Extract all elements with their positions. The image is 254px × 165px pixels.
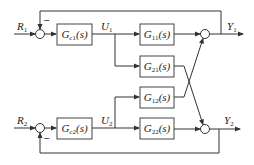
label-r1: R1 xyxy=(16,20,28,34)
minus-sign-2: − xyxy=(44,133,50,144)
g12-to-sum-y1 xyxy=(174,39,203,98)
minus-sign-1: − xyxy=(44,15,50,26)
label-r2: R2 xyxy=(16,114,28,128)
label-u1: U1 xyxy=(101,20,113,34)
label-u2: U2 xyxy=(101,114,113,128)
summing-junction-y2 xyxy=(201,125,210,134)
label-y2: Y2 xyxy=(224,114,234,128)
g21-to-sum-y2 xyxy=(174,66,203,125)
summing-junction-2 xyxy=(36,124,45,133)
summing-junction-1 xyxy=(36,30,45,39)
u1-branch-to-g21 xyxy=(115,34,139,66)
u2-branch-to-g12 xyxy=(115,97,139,128)
summing-junction-y1 xyxy=(201,30,210,39)
label-y1: Y1 xyxy=(227,20,237,34)
block-diagram: R1 − Gc1(s) U1 G11(s) G21(s) Y1 R2 − Gc2… xyxy=(0,0,254,165)
